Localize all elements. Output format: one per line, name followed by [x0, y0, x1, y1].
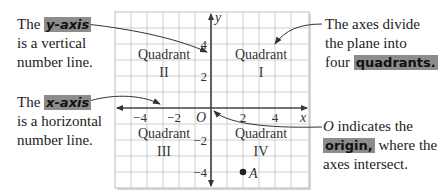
origin-callout-line3: axes intersect.: [323, 155, 437, 174]
origin-callout-line2: where the: [375, 137, 437, 153]
quadrant-4-word: Quadrant: [235, 126, 287, 141]
y-axis-callout-prefix: The: [17, 16, 44, 32]
quadrants-callout-prefix: four: [325, 54, 354, 70]
y-tick-neg2: −2: [193, 133, 207, 148]
quadrant-2-word: Quadrant: [138, 47, 190, 62]
y-tick-2: 2: [201, 69, 208, 84]
origin-label: O: [196, 110, 206, 125]
quadrant-2-numeral: II: [159, 65, 169, 80]
origin-symbol: O: [323, 118, 334, 134]
quadrants-callout-line1: The axes divide: [325, 15, 438, 34]
origin-callout: O indicates the origin, where the axes i…: [323, 117, 437, 174]
x-axis-term-highlight: x-axis: [44, 95, 91, 110]
origin-term-highlight: origin,: [323, 138, 375, 153]
quadrants-term-highlight: quadrants.: [354, 55, 438, 70]
y-axis-label: y: [213, 10, 222, 25]
x-axis-callout: The x-axis is a horizontal number line.: [17, 93, 102, 150]
point-a-label: A: [248, 166, 258, 181]
quadrants-callout: The axes divide the plane into four quad…: [325, 15, 438, 72]
y-axis-callout-line3: number line.: [17, 53, 93, 72]
quadrant-3-numeral: III: [157, 144, 171, 159]
quadrant-3-word: Quadrant: [138, 126, 190, 141]
quadrants-callout-line2: the plane into: [325, 34, 438, 53]
origin-callout-line1: indicates the: [334, 118, 413, 134]
quadrant-4-numeral: IV: [254, 144, 269, 159]
x-axis-callout-line2: is a horizontal: [17, 112, 102, 131]
y-axis-term-highlight: y-axis: [44, 17, 91, 32]
quadrant-1-numeral: I: [259, 65, 264, 80]
x-axis-callout-line3: number line.: [17, 131, 102, 150]
x-axis-label: x: [299, 110, 307, 125]
quadrant-1-word: Quadrant: [235, 47, 287, 62]
x-tick-4: 4: [272, 110, 279, 125]
x-axis-callout-prefix: The: [17, 94, 44, 110]
x-tick-neg4: −4: [133, 110, 147, 125]
x-tick-neg2: −2: [167, 110, 181, 125]
y-axis-callout-line2: is a vertical: [17, 34, 93, 53]
point-a: [240, 169, 247, 176]
y-axis-callout: The y-axis is a vertical number line.: [17, 15, 93, 72]
y-tick-neg4: −4: [193, 165, 207, 180]
